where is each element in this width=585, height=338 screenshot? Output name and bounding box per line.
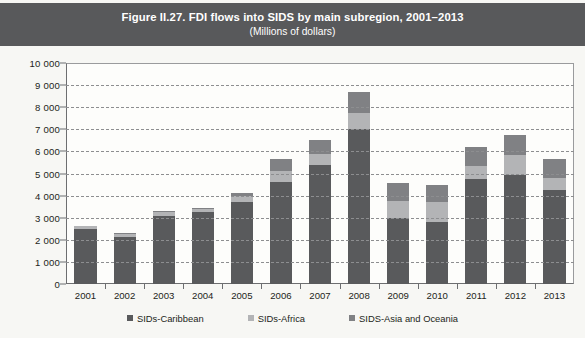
legend-label: SIDS-Asia and Oceania: [359, 313, 458, 324]
x-axis-tick-mark: [261, 284, 262, 289]
x-axis-tick-label: 2002: [114, 290, 135, 301]
y-axis-tick-label: 7 000: [35, 124, 60, 135]
x-axis-tick-mark: [340, 284, 341, 289]
x-axis-tick-mark: [457, 284, 458, 289]
x-axis-tick-label: 2007: [309, 290, 330, 301]
x-axis-tick-mark: [222, 284, 223, 289]
y-axis-tick-label: 3 000: [35, 212, 60, 223]
legend-swatch-icon: [349, 315, 355, 321]
x-axis-tick-mark: [105, 284, 106, 289]
bar-segment[interactable]: [387, 218, 409, 284]
x-axis-tick-label: 2013: [544, 290, 565, 301]
bar-segment[interactable]: [231, 202, 253, 284]
bar-segment[interactable]: [153, 216, 175, 285]
bar-segment[interactable]: [270, 159, 292, 172]
bar-column[interactable]: [465, 147, 487, 284]
legend-label: SIDs-Caribbean: [137, 313, 204, 324]
x-axis-tick-label: 2005: [231, 290, 252, 301]
x-axis-tick-label: 2012: [505, 290, 526, 301]
bar-segment[interactable]: [192, 212, 214, 284]
bar-segment[interactable]: [74, 229, 96, 284]
legend-swatch-icon: [127, 315, 133, 321]
x-axis-tick-mark: [144, 284, 145, 289]
bar-segment[interactable]: [465, 166, 487, 179]
bar-column[interactable]: [543, 159, 565, 284]
x-axis-tick-label: 2008: [348, 290, 369, 301]
y-axis-tick-label: 9 000: [35, 80, 60, 91]
bar-segment[interactable]: [387, 183, 409, 201]
chart-legend: SIDs-CaribbeanSIDs-AfricaSIDS-Asia and O…: [0, 310, 585, 326]
x-axis-tick-mark: [379, 284, 380, 289]
bar-segment[interactable]: [231, 196, 253, 203]
bar-column[interactable]: [426, 185, 448, 284]
y-axis-tick-label: 6 000: [35, 146, 60, 157]
gridline: [66, 174, 574, 175]
plot-area: [66, 63, 574, 284]
legend-label: SIDs-Africa: [258, 313, 305, 324]
x-axis-labels: 2001200220032004200520062007200820092010…: [66, 290, 574, 306]
gridline: [66, 240, 574, 241]
y-axis-tick-label: 2 000: [35, 234, 60, 245]
bar-segment[interactable]: [114, 237, 136, 285]
bar-column[interactable]: [387, 183, 409, 284]
x-axis-tick-label: 2010: [427, 290, 448, 301]
gridline: [66, 107, 574, 108]
legend-swatch-icon: [248, 315, 254, 321]
x-axis-tick-label: 2001: [75, 290, 96, 301]
bar-column[interactable]: [114, 233, 136, 284]
bar-segment[interactable]: [465, 147, 487, 166]
gridline: [66, 85, 574, 86]
y-axis-tick-label: 4 000: [35, 190, 60, 201]
bar-segment[interactable]: [348, 129, 370, 284]
bar-segment[interactable]: [270, 182, 292, 284]
bar-column[interactable]: [74, 226, 96, 284]
legend-item[interactable]: SIDS-Asia and Oceania: [349, 313, 458, 324]
figure-subtitle: (Millions of dollars): [250, 25, 336, 39]
gridline: [66, 262, 574, 263]
bar-segment[interactable]: [348, 113, 370, 130]
bar-segment[interactable]: [543, 190, 565, 284]
figure-title: Figure II.27. FDI flows into SIDS by mai…: [121, 10, 463, 24]
bar-segment[interactable]: [348, 92, 370, 113]
bar-column[interactable]: [348, 92, 370, 284]
figure-container: Figure II.27. FDI flows into SIDS by mai…: [0, 0, 585, 338]
gridline: [66, 129, 574, 130]
legend-item[interactable]: SIDs-Africa: [248, 313, 305, 324]
bar-segment[interactable]: [504, 175, 526, 284]
gridline: [66, 196, 574, 197]
bar-segment[interactable]: [504, 155, 526, 175]
x-axis-tick-mark: [183, 284, 184, 289]
bar-segment[interactable]: [543, 159, 565, 178]
x-axis-tick-mark: [496, 284, 497, 289]
bar-column[interactable]: [270, 159, 292, 284]
x-axis-tick-mark: [418, 284, 419, 289]
bar-segment[interactable]: [426, 185, 448, 203]
bar-segment[interactable]: [309, 165, 331, 284]
x-axis-tick-mark: [300, 284, 301, 289]
gridline: [66, 151, 574, 152]
x-axis-tick-label: 2003: [153, 290, 174, 301]
bar-column[interactable]: [231, 193, 253, 284]
bar-segment[interactable]: [387, 201, 409, 218]
y-axis-tick-label: 1 000: [35, 256, 60, 267]
bar-column[interactable]: [192, 208, 214, 284]
gridline: [66, 218, 574, 219]
x-axis-tick-label: 2006: [270, 290, 291, 301]
y-axis-labels: 01 0002 0003 0004 0005 0006 0007 0008 00…: [0, 63, 60, 284]
bar-segment[interactable]: [543, 178, 565, 190]
x-axis-tick-label: 2009: [387, 290, 408, 301]
bar-segment[interactable]: [309, 154, 331, 165]
bar-segment[interactable]: [426, 202, 448, 222]
x-axis-tick-label: 2004: [192, 290, 213, 301]
y-axis-tick-label: 10 000: [29, 58, 60, 69]
y-axis-tick-label: 8 000: [35, 102, 60, 113]
bar-column[interactable]: [153, 211, 175, 284]
x-axis-tick-mark: [535, 284, 536, 289]
y-axis-tick-label: 5 000: [35, 168, 60, 179]
bar-segment[interactable]: [426, 222, 448, 284]
figure-title-band: Figure II.27. FDI flows into SIDS by mai…: [0, 3, 585, 46]
legend-item[interactable]: SIDs-Caribbean: [127, 313, 204, 324]
x-axis-tick-label: 2011: [466, 290, 487, 301]
